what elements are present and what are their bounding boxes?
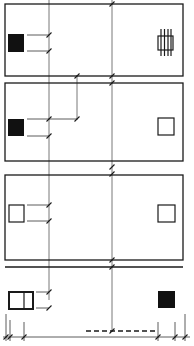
panel-2 xyxy=(5,83,183,161)
panel-1 xyxy=(5,2,183,77)
panel-1-frame xyxy=(5,4,183,76)
hollow-square-icon xyxy=(158,118,174,135)
panel-3 xyxy=(5,175,183,260)
barred-square-icon xyxy=(158,29,173,56)
panel-4 xyxy=(5,267,183,311)
vertical-guides xyxy=(49,0,112,332)
filled-square-icon xyxy=(8,34,24,52)
panel-3-frame xyxy=(5,175,183,260)
bottom-dimension-chain xyxy=(3,314,190,341)
elevation-diagram xyxy=(0,0,194,346)
hollow-square-icon xyxy=(158,205,175,222)
panel-2-frame xyxy=(5,83,183,161)
double-window-icon xyxy=(9,292,33,309)
hollow-square-icon xyxy=(9,205,24,222)
filled-square-icon xyxy=(8,119,24,136)
filled-square-icon xyxy=(158,291,175,308)
